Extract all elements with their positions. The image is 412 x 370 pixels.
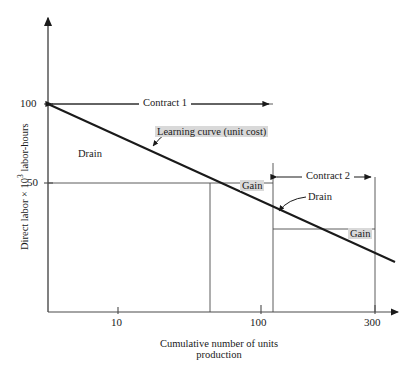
gain-region-2-label: Gain [348, 228, 372, 239]
y-axis-title-exponent: 3 [16, 174, 25, 178]
learning-curve-chart: Direct labor × 103 labor-hours 100 50 10… [0, 0, 412, 370]
y-tick-label-50: 50 [27, 176, 38, 188]
x-axis-title: Cumulative number of units production [139, 338, 299, 360]
x-tick-label-100: 100 [250, 316, 267, 328]
drain-region-1-label: Drain [78, 148, 102, 159]
contract-2-label: Contract 2 [302, 170, 354, 181]
contract-1-label: Contract 1 [139, 97, 191, 108]
y-axis-title-part1: Direct labor × 10 [19, 178, 30, 250]
x-tick-label-300: 300 [364, 316, 381, 328]
x-axis-title-line1: Cumulative number of units [139, 338, 299, 349]
learning-curve-label: Learning curve (unit cost) [155, 126, 268, 137]
drain-region-2-label: Drain [308, 191, 332, 202]
x-tick-label-10: 10 [111, 316, 122, 328]
drain2-leader [279, 197, 306, 211]
gain-region-1-label: Gain [240, 180, 264, 191]
chart-canvas [0, 0, 412, 370]
y-tick-label-100: 100 [20, 97, 37, 109]
x-axis-title-line2: production [139, 349, 299, 360]
y-axis-title-part2: labor-hours [19, 123, 30, 174]
